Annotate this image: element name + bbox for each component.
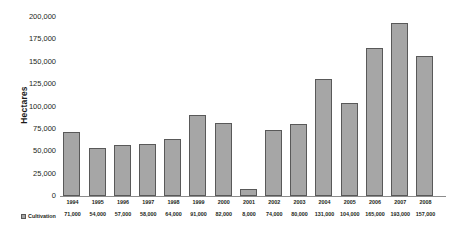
bar[interactable] xyxy=(215,123,232,196)
data-value-cell: 104,000 xyxy=(337,211,362,218)
bar[interactable] xyxy=(189,115,206,196)
y-axis-tick-label: 175,000 xyxy=(0,35,56,43)
data-value-cell: 71,000 xyxy=(60,211,85,218)
bar-slot xyxy=(413,17,438,196)
legend: Cultivation xyxy=(21,211,56,221)
x-axis-tick-label: 1994 xyxy=(60,199,85,206)
x-axis-tick-label: 2003 xyxy=(287,199,312,206)
bar[interactable] xyxy=(391,23,408,196)
square-swatch-icon xyxy=(21,214,26,219)
x-axis-tick-label: 2005 xyxy=(337,199,362,206)
x-axis-tick-label: 2007 xyxy=(388,199,413,206)
x-axis-tick-label: 1999 xyxy=(186,199,211,206)
bar-series-cultivation xyxy=(60,17,446,196)
bar-chart: Hectares 200,000175,000150,000125,000100… xyxy=(0,0,455,228)
data-value-cell: 54,000 xyxy=(85,211,110,218)
x-axis-tick-label: 2000 xyxy=(211,199,236,206)
x-axis-tick-label: 1998 xyxy=(161,199,186,206)
data-value-cell: 193,000 xyxy=(388,211,413,218)
bar-slot xyxy=(262,17,287,196)
y-axis-tick-label: 100,000 xyxy=(0,103,56,111)
x-axis-tick-label: 1997 xyxy=(136,199,161,206)
y-axis-tick-label: 150,000 xyxy=(0,58,56,66)
data-value-row: 71,00054,00057,00058,00064,00091,00082,0… xyxy=(60,211,446,221)
x-axis-tick-label: 2008 xyxy=(413,199,438,206)
bar[interactable] xyxy=(114,145,131,196)
x-axis-tick-label: 2004 xyxy=(312,199,337,206)
bar-slot xyxy=(337,17,362,196)
x-axis-tick-label: 2002 xyxy=(262,199,287,206)
bar-slot xyxy=(236,17,261,196)
bar[interactable] xyxy=(290,124,307,196)
bar[interactable] xyxy=(63,132,80,196)
bar-slot xyxy=(312,17,337,196)
data-value-cell: 64,000 xyxy=(161,211,186,218)
bar[interactable] xyxy=(139,144,156,196)
bar[interactable] xyxy=(164,139,181,196)
y-axis-tick-label: 25,000 xyxy=(0,170,56,178)
data-value-cell: 58,000 xyxy=(136,211,161,218)
x-axis-tick-label: 1996 xyxy=(110,199,135,206)
x-axis-baseline xyxy=(60,196,446,197)
bar-slot xyxy=(85,17,110,196)
bar[interactable] xyxy=(416,56,433,197)
data-value-cell: 8,000 xyxy=(236,211,261,218)
legend-label: Cultivation xyxy=(28,213,56,220)
bar-slot xyxy=(136,17,161,196)
x-axis-tick-label: 1995 xyxy=(85,199,110,206)
bar[interactable] xyxy=(265,130,282,196)
data-value-cell: 57,000 xyxy=(110,211,135,218)
bar-slot xyxy=(362,17,387,196)
y-axis-tick-label: 200,000 xyxy=(0,13,56,21)
data-value-cell: 131,000 xyxy=(312,211,337,218)
plot-area xyxy=(60,17,446,196)
data-value-cell: 82,000 xyxy=(211,211,236,218)
data-value-cell: 165,000 xyxy=(362,211,387,218)
y-axis-tick-label: 50,000 xyxy=(0,147,56,155)
bar-slot xyxy=(287,17,312,196)
bar[interactable] xyxy=(366,48,383,196)
y-axis-tick-label: 0 xyxy=(0,192,56,200)
bar-slot xyxy=(211,17,236,196)
x-axis-tick-label: 2006 xyxy=(362,199,387,206)
bar[interactable] xyxy=(89,148,106,196)
bar[interactable] xyxy=(341,103,358,196)
y-axis-tick-label: 125,000 xyxy=(0,80,56,88)
x-axis-category-labels: 1994199519961997199819992000200120022003… xyxy=(60,199,446,209)
y-axis-tick-label: 75,000 xyxy=(0,125,56,133)
data-value-cell: 74,000 xyxy=(262,211,287,218)
data-value-cell: 91,000 xyxy=(186,211,211,218)
bar-slot xyxy=(161,17,186,196)
data-value-cell: 80,000 xyxy=(287,211,312,218)
bar-slot xyxy=(388,17,413,196)
bar[interactable] xyxy=(240,189,257,196)
x-axis-tick-label: 2001 xyxy=(236,199,261,206)
bar-slot xyxy=(186,17,211,196)
bar[interactable] xyxy=(315,79,332,196)
y-axis-tick-labels: 200,000175,000150,000125,000100,00075,00… xyxy=(0,17,56,196)
data-value-cell: 157,000 xyxy=(413,211,438,218)
bar-slot xyxy=(110,17,135,196)
bar-slot xyxy=(60,17,85,196)
